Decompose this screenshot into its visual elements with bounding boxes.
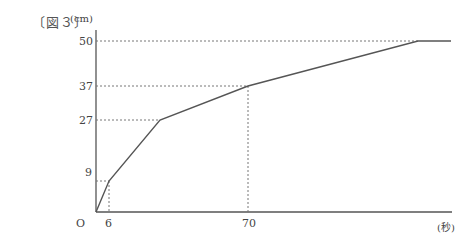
data-line bbox=[96, 41, 451, 212]
guide-lines bbox=[96, 41, 418, 212]
chart-canvas bbox=[0, 0, 476, 240]
